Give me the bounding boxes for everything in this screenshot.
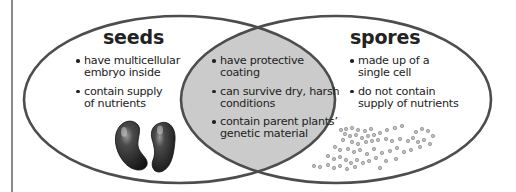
- shared-item: contain parent plants’ genetic material: [212, 116, 342, 141]
- seeds-item: have multicellular embryo inside: [76, 55, 196, 80]
- spores-title: spores: [350, 27, 420, 47]
- bean-seeds-icon: [115, 121, 175, 172]
- seeds-item: contain supply of nutrients: [76, 86, 196, 111]
- shared-item: have protective coating: [212, 55, 342, 80]
- shared-item: can survive dry, harsh conditions: [212, 86, 342, 111]
- seeds-list: have multicellular embryo inside contain…: [76, 55, 196, 116]
- spores-item: do not contain supply of nutrients: [350, 86, 470, 111]
- spores-list: made up of a single cell do not contain …: [350, 55, 470, 116]
- seeds-title: seeds: [103, 27, 164, 47]
- spores-item: made up of a single cell: [350, 55, 470, 80]
- shared-traits-list: have protective coating can survive dry,…: [212, 55, 342, 147]
